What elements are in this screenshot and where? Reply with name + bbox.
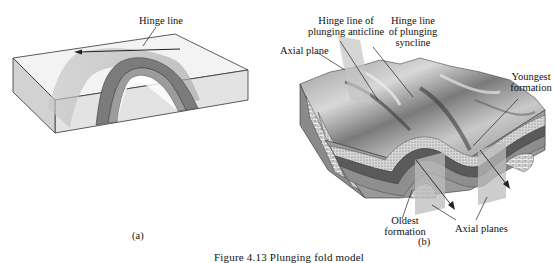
label-youngest-formation: Youngest formation bbox=[504, 71, 554, 93]
label-hinge-syncline: Hinge line of plunging syncline bbox=[380, 15, 446, 48]
axial-plane-anticline bbox=[415, 152, 445, 215]
axial-plane-syncline bbox=[478, 142, 506, 205]
label-hinge-anticline: Hinge line of plunging anticline bbox=[299, 15, 393, 37]
panel-b-block bbox=[300, 36, 545, 220]
label-axial-planes: Axial planes bbox=[455, 223, 508, 234]
label-oldest-formation: Oldest formation bbox=[380, 215, 430, 237]
label-hinge-line: Hinge line bbox=[139, 15, 183, 26]
panel-a-block bbox=[13, 27, 248, 133]
panel-a-sublabel: (a) bbox=[132, 230, 144, 241]
panel-b-sublabel: (b) bbox=[418, 236, 430, 247]
figure-caption: Figure 4.13 Plunging fold model bbox=[214, 251, 364, 263]
label-axial-plane: Axial plane bbox=[280, 45, 329, 56]
